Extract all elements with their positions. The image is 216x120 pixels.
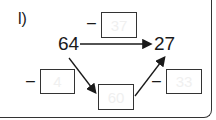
arrows bbox=[0, 0, 216, 120]
arrow-down-icon bbox=[69, 58, 95, 92]
exercise-panel: l) – 37 64 27 – 4 60 – 33 bbox=[0, 0, 216, 120]
arrow-up-icon bbox=[135, 58, 164, 96]
